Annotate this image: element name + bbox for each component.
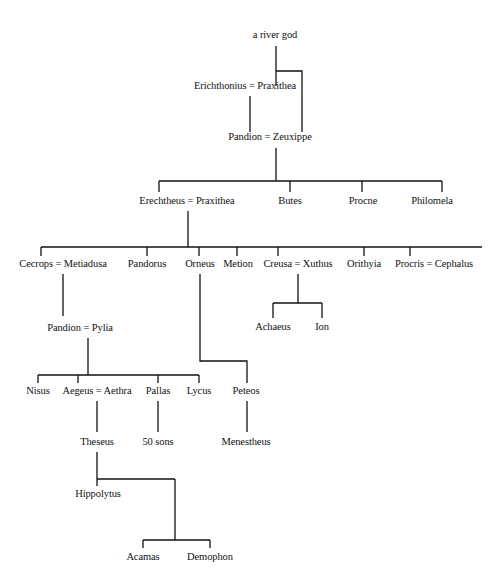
person-node-erichthonius-praxithea: Erichthonius = Praxithea bbox=[194, 80, 296, 92]
family-tree-diagram: a river godErichthonius = PraxitheaPandi… bbox=[0, 0, 502, 587]
person-node-butes: Butes bbox=[278, 195, 301, 207]
person-node-theseus: Theseus bbox=[80, 436, 114, 448]
person-node-cecrops-metiadusa: Cecrops = Metiadusa bbox=[19, 258, 106, 270]
person-node-achaeus: Achaeus bbox=[255, 321, 290, 333]
person-node-philomela: Philomela bbox=[411, 195, 453, 207]
person-node-ion: Ion bbox=[315, 321, 329, 333]
connector-line bbox=[200, 274, 247, 383]
person-node-pandorus: Pandorus bbox=[128, 258, 166, 270]
person-node-orneus: Orneus bbox=[185, 258, 215, 270]
person-node-creusa-xuthus: Creusa = Xuthus bbox=[263, 258, 332, 270]
person-node-fifty-sons: 50 sons bbox=[142, 436, 173, 448]
person-node-demophon: Demophon bbox=[187, 551, 233, 563]
person-node-procris-cephalus: Procris = Cephalus bbox=[395, 258, 473, 270]
person-node-pandion-zeuxippe: Pandion = Zeuxippe bbox=[228, 131, 311, 143]
person-node-pandion-pylia: Pandion = Pylia bbox=[47, 322, 113, 334]
person-node-metion: Metion bbox=[223, 258, 253, 270]
person-node-erechtheus-praxithea: Erechtheus = Praxithea bbox=[139, 195, 234, 207]
person-node-menestheus: Menestheus bbox=[221, 436, 270, 448]
person-node-procne: Procne bbox=[349, 195, 378, 207]
person-node-river-god: a river god bbox=[253, 29, 297, 41]
person-node-acamas: Acamas bbox=[126, 551, 159, 563]
person-node-pallas: Pallas bbox=[146, 385, 170, 397]
person-node-peteos: Peteos bbox=[233, 385, 260, 397]
person-node-orithyia: Orithyia bbox=[347, 258, 381, 270]
person-node-nisus: Nisus bbox=[26, 385, 49, 397]
person-node-hippolytus: Hippolytus bbox=[75, 488, 121, 500]
person-node-lycus: Lycus bbox=[187, 385, 212, 397]
person-node-aegeus-aethra: Aegeus = Aethra bbox=[62, 385, 131, 397]
